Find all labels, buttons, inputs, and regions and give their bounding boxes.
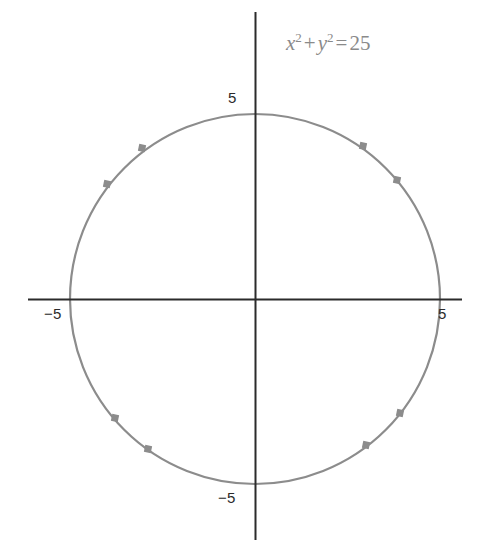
equation-right-hand-side: 25 <box>349 31 370 55</box>
equation-annotation: x2+y2=25 <box>286 30 370 56</box>
x-axis-tick-label-negative-five: −5 <box>44 305 62 322</box>
equation-y-exponent: 2 <box>327 30 334 45</box>
point-marker <box>144 445 152 453</box>
x-axis-tick-label-positive-five: 5 <box>438 305 447 322</box>
point-marker <box>393 176 401 184</box>
point-marker <box>362 441 370 449</box>
equation-x-exponent: 2 <box>295 30 302 45</box>
point-marker <box>359 142 367 150</box>
plotted-points <box>103 142 404 453</box>
point-marker <box>138 144 146 152</box>
equation-equals-operator: = <box>334 31 350 55</box>
circle-plot-svg <box>0 0 486 550</box>
equation-plus-operator: + <box>302 31 318 55</box>
equation-y-var: y <box>318 31 327 55</box>
point-marker <box>396 409 404 417</box>
point-marker <box>103 180 111 188</box>
y-axis-tick-label-positive-five: 5 <box>228 89 237 106</box>
graph-canvas: x2+y2=25 5 −5 −5 5 <box>0 0 486 550</box>
point-marker <box>111 414 119 422</box>
y-axis-tick-label-negative-five: −5 <box>218 489 236 506</box>
equation-x-var: x <box>286 31 295 55</box>
